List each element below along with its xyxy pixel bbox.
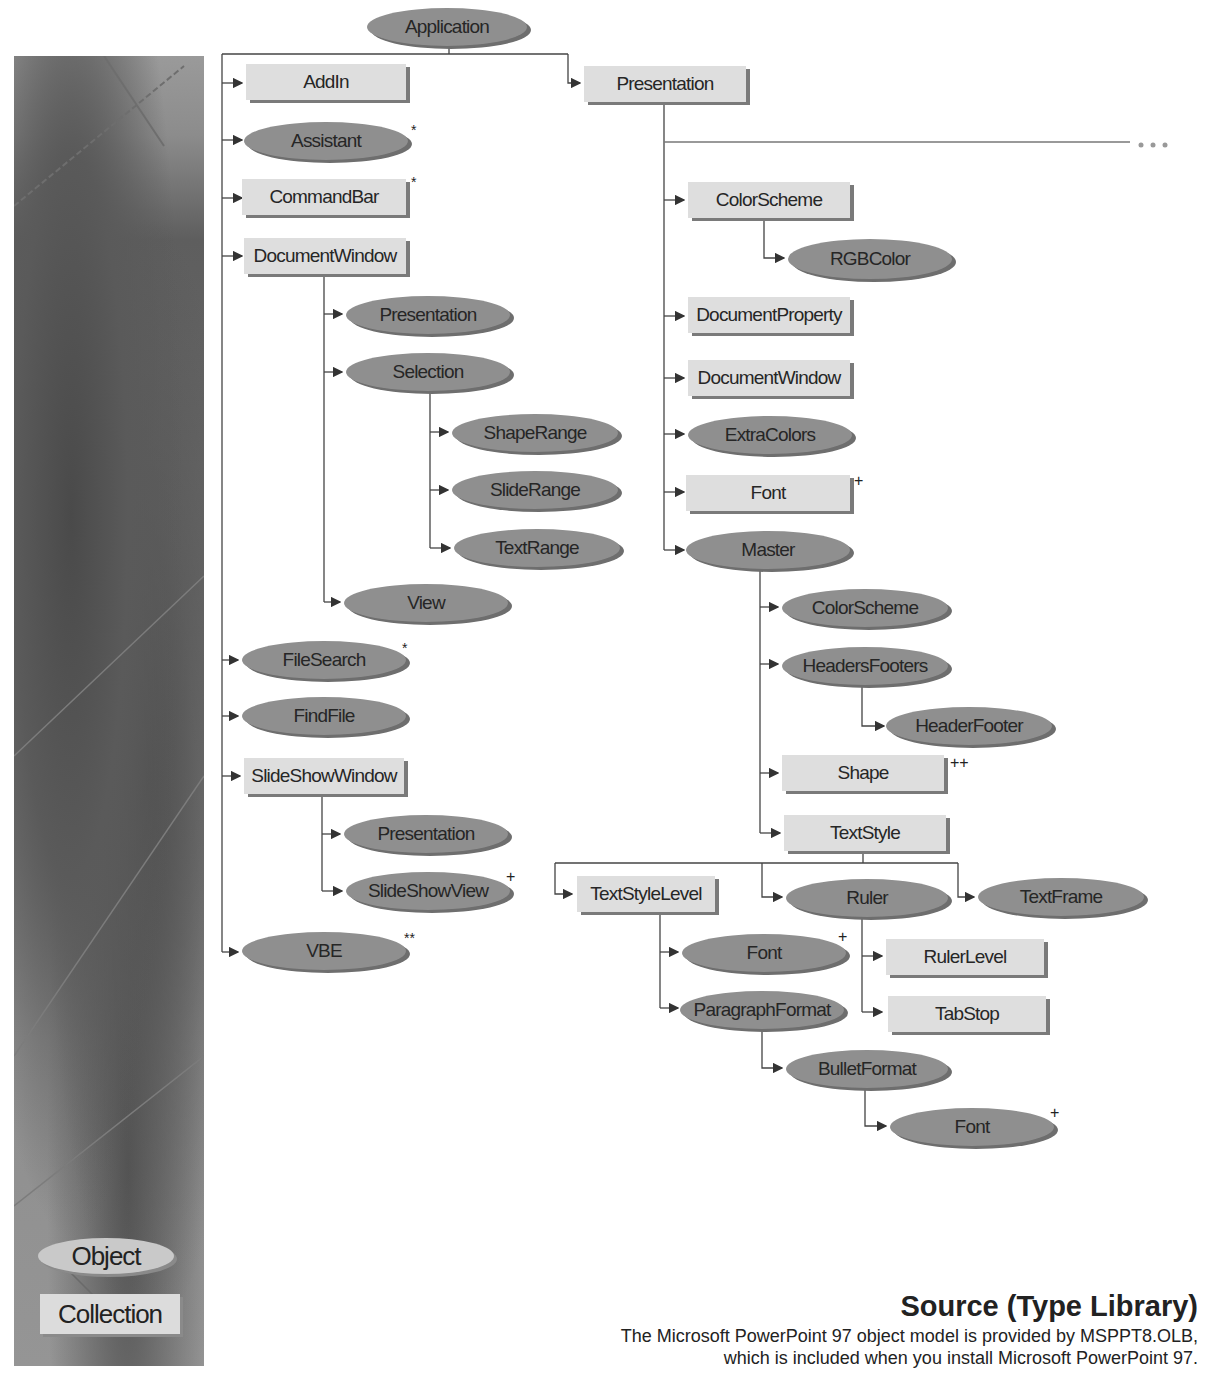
node-addin[interactable]: AddIn	[246, 64, 406, 100]
node-ssw-presentation[interactable]: Presentation	[344, 815, 508, 853]
node-documentwindow[interactable]: DocumentWindow	[244, 238, 406, 274]
footnote-mark: *	[402, 640, 407, 656]
source-description: The Microsoft PowerPoint 97 object model…	[621, 1325, 1198, 1369]
node-headerfooter[interactable]: HeaderFooter	[886, 707, 1052, 745]
footnote-mark: +	[854, 472, 863, 490]
node-p-colorscheme[interactable]: ColorScheme	[688, 182, 850, 218]
node-headersfooters[interactable]: HeadersFooters	[782, 647, 948, 685]
node-textstyle[interactable]: TextStyle	[784, 815, 946, 851]
footnote-mark: +	[1050, 1104, 1059, 1122]
node-filesearch[interactable]: FileSearch	[242, 641, 406, 679]
node-documentproperty[interactable]: DocumentProperty	[688, 297, 850, 333]
footnote-mark: *	[411, 174, 416, 190]
node-tabstop[interactable]: TabStop	[888, 996, 1046, 1032]
node-rgbcolor[interactable]: RGBColor	[788, 239, 952, 279]
node-p-documentwindow[interactable]: DocumentWindow	[688, 360, 850, 396]
source-line-1: The Microsoft PowerPoint 97 object model…	[621, 1325, 1198, 1347]
node-dw-view[interactable]: View	[344, 584, 508, 622]
node-textframe[interactable]: TextFrame	[978, 878, 1144, 916]
node-dw-presentation[interactable]: Presentation	[346, 296, 510, 334]
footnote-mark: *	[411, 122, 416, 138]
node-rulerlevel[interactable]: RulerLevel	[886, 939, 1044, 975]
source-title: Source (Type Library)	[900, 1290, 1198, 1323]
node-bf-font[interactable]: Font	[890, 1108, 1054, 1146]
node-application[interactable]: Application	[367, 8, 527, 46]
node-m-colorscheme[interactable]: ColorScheme	[782, 589, 948, 627]
node-p-font[interactable]: Font	[686, 475, 850, 511]
node-sliderange[interactable]: SlideRange	[452, 471, 618, 509]
continuation-ellipsis-icon	[1139, 143, 1168, 148]
footnote-mark: +	[838, 928, 847, 946]
node-extracolors[interactable]: ExtraColors	[688, 416, 852, 454]
node-textrange[interactable]: TextRange	[454, 529, 620, 567]
node-ruler[interactable]: Ruler	[786, 879, 948, 917]
footnote-mark: ++	[950, 754, 969, 772]
node-assistant[interactable]: Assistant	[244, 122, 408, 160]
node-shaperange[interactable]: ShapeRange	[452, 414, 618, 452]
node-dw-selection[interactable]: Selection	[346, 353, 510, 391]
node-findfile[interactable]: FindFile	[242, 697, 406, 735]
node-master[interactable]: Master	[686, 531, 850, 569]
source-line-2: which is included when you install Micro…	[621, 1347, 1198, 1369]
node-paragraphformat[interactable]: ParagraphFormat	[680, 991, 844, 1029]
node-tsl-font[interactable]: Font	[682, 934, 846, 972]
footnote-mark: **	[404, 930, 415, 946]
footnote-mark: +	[506, 868, 515, 886]
node-slideshowview[interactable]: SlideShowView	[346, 872, 510, 910]
node-textstylelevel[interactable]: TextStyleLevel	[577, 876, 715, 912]
node-bulletformat[interactable]: BulletFormat	[786, 1050, 948, 1088]
node-presentation[interactable]: Presentation	[584, 66, 746, 102]
node-commandbar[interactable]: CommandBar	[242, 179, 406, 215]
node-slideshowwindow[interactable]: SlideShowWindow	[244, 758, 404, 794]
node-shape[interactable]: Shape	[782, 755, 944, 791]
connector-lines	[0, 0, 1218, 1395]
node-vbe[interactable]: VBE	[242, 932, 406, 970]
